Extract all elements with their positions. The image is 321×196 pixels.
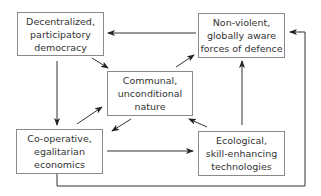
node-technologies: Ecological, skill-enhancing technologies	[198, 131, 285, 176]
node-defence-label: Non-violent, globally aware forces of de…	[200, 16, 282, 55]
node-defence: Non-violent, globally aware forces of de…	[198, 13, 285, 58]
node-economics: Co-operative, egalitarian economics	[16, 129, 103, 174]
node-democracy-label: Decentralized, participatory democracy	[26, 15, 95, 54]
node-technologies-label: Ecological, skill-enhancing technologies	[206, 134, 277, 173]
node-economics-label: Co-operative, egalitarian economics	[27, 132, 92, 171]
node-nature-label: Communal, unconditional nature	[118, 74, 182, 113]
node-democracy: Decentralized, participatory democracy	[17, 12, 104, 56]
node-nature: Communal, unconditional nature	[107, 71, 193, 116]
